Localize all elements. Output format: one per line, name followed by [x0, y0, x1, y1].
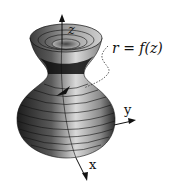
z-axis-arrow-icon: [59, 14, 65, 22]
x-axis-label: x: [89, 157, 97, 172]
vase-inner-ring: [52, 39, 80, 49]
z-axis-label: z: [67, 22, 75, 37]
vase-diagram: z y x r = f(z): [0, 0, 184, 188]
y-axis-arrow-icon: [128, 118, 136, 124]
x-axis-arrow-icon: [82, 172, 88, 181]
y-axis-label: y: [123, 102, 132, 117]
radius-function-label: r = f(z): [112, 40, 163, 56]
